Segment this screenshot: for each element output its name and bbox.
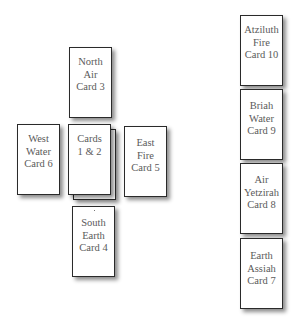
card-line: 1 & 2 bbox=[69, 146, 110, 159]
card-line: Earth bbox=[73, 230, 114, 243]
card-line: Card 4 bbox=[73, 242, 114, 255]
card-line: North bbox=[70, 56, 111, 69]
card-briah-water-9: Briah Water Card 9 bbox=[240, 89, 283, 160]
card-line: Assiah bbox=[241, 263, 282, 276]
card-line: Water bbox=[241, 113, 282, 126]
card-line: Air bbox=[241, 174, 282, 187]
card-assiah-earth-7: Earth Assiah Card 7 bbox=[240, 238, 283, 309]
card-line: Card 7 bbox=[241, 275, 282, 288]
card-line: Card 10 bbox=[241, 49, 282, 62]
card-line: South bbox=[73, 217, 114, 230]
card-line: Card 6 bbox=[18, 158, 59, 171]
card-line: West bbox=[18, 133, 59, 146]
card-center-1-2: Cards 1 & 2 bbox=[68, 124, 111, 195]
card-atziluth-fire-10: Atziluth Fire Card 10 bbox=[240, 15, 283, 86]
card-north-air-3: North Air Card 3 bbox=[69, 47, 112, 118]
card-line: Cards bbox=[69, 133, 110, 146]
card-line: Fire bbox=[125, 150, 166, 163]
card-line: Card 8 bbox=[241, 199, 282, 212]
card-west-water-6: West Water Card 6 bbox=[17, 124, 60, 195]
card-line: East bbox=[125, 137, 166, 150]
card-south-earth-4: South Earth Card 4 bbox=[72, 206, 115, 277]
card-line: Water bbox=[18, 146, 59, 159]
card-line: Card 9 bbox=[241, 125, 282, 138]
card-line: Briah bbox=[241, 100, 282, 113]
dot-mark bbox=[94, 210, 95, 211]
card-line: Earth bbox=[241, 250, 282, 263]
card-line: Card 5 bbox=[125, 162, 166, 175]
card-line: Card 3 bbox=[70, 81, 111, 94]
card-line: Yetzirah bbox=[241, 187, 282, 200]
card-line: Atziluth bbox=[241, 24, 282, 37]
card-east-fire-5: East Fire Card 5 bbox=[124, 126, 167, 197]
card-yetzirah-air-8: Air Yetzirah Card 8 bbox=[240, 163, 283, 234]
card-line: Air bbox=[70, 69, 111, 82]
card-line: Fire bbox=[241, 37, 282, 50]
